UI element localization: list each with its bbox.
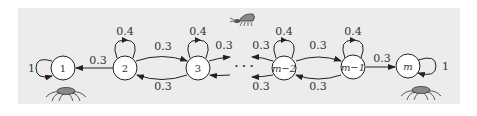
- loop-2-label: 0.4: [116, 25, 134, 38]
- node-3-label: 3: [195, 63, 201, 74]
- loop-m-label: 1: [442, 60, 449, 73]
- node-m-label: m: [403, 61, 412, 72]
- edge-3-to-ellipsis: [209, 57, 230, 61]
- markov-chain-diagram: 1 2 3 m−2 m−1 m 1 0.4 0.4 0.4 0.4 1 0.3 …: [0, 0, 477, 116]
- ellipsis: · · ·: [234, 60, 253, 73]
- edge-m2-to-m1: [296, 57, 341, 61]
- edge-2-3-label: 0.3: [154, 40, 172, 53]
- edge-3-2-label: 0.3: [154, 80, 172, 93]
- edge-m2-to-ellipsis-lower: [252, 75, 273, 77]
- self-loop-3: [188, 40, 208, 58]
- bug-icon-top: [230, 14, 255, 26]
- edge-m2-to-ellipsis: [252, 57, 273, 61]
- self-loop-m2: [274, 40, 294, 58]
- edge-2-1-label: 0.3: [89, 54, 107, 67]
- edge-m1-m2-label: 0.3: [309, 80, 327, 93]
- node-m-2-label: m−2: [272, 63, 296, 74]
- node-2-label: 2: [122, 63, 128, 74]
- edge-2-to-3: [136, 57, 187, 62]
- spider-icon-left: [46, 88, 86, 102]
- spider-icon-right: [401, 87, 441, 101]
- edge-m2-left-upper-label: 0.3: [252, 39, 270, 52]
- node-m-1-label: m−1: [341, 62, 365, 73]
- node-1-label: 1: [60, 63, 66, 74]
- edge-m2-left-lower-label: 0.3: [252, 80, 270, 93]
- edge-m1-to-m2: [296, 75, 341, 79]
- loop-3-label: 0.4: [189, 25, 207, 38]
- loop-m1-label: 0.4: [344, 25, 362, 38]
- loop-m2-label: 0.4: [275, 25, 293, 38]
- edge-m1-m-label: 0.3: [373, 52, 391, 65]
- self-loop-1: [36, 60, 52, 77]
- edge-3-right-label: 0.3: [215, 39, 233, 52]
- edge-m2-m1-label: 0.3: [309, 39, 327, 52]
- self-loop-m: [418, 58, 436, 74]
- loop-1-label: 1: [28, 62, 35, 75]
- self-loop-2: [115, 40, 135, 58]
- edge-ellipsis-to-3: [210, 75, 230, 76]
- edge-3-to-2: [137, 75, 187, 80]
